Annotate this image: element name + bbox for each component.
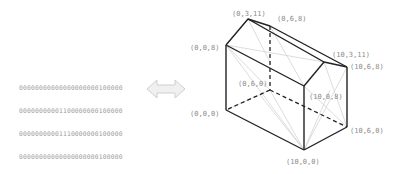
vertex-label: (0,6,0) — [238, 80, 268, 88]
vertex-label: (0,0,8) — [190, 44, 220, 52]
vertex-label: (0,0,0) — [190, 110, 220, 118]
vertex-label: (10,0,8) — [309, 93, 343, 101]
vertex-label: (10,0,0) — [286, 158, 320, 166]
vertex-label: (10,6,8) — [350, 63, 384, 71]
house-wireframe: (0,3,11) (0,6,8) (0,0,8) (0,6,0) (0,0,0)… — [0, 0, 405, 174]
vertex-label: (0,3,11) — [232, 10, 266, 18]
vertex-label: (10,3,11) — [332, 51, 370, 59]
vertex-label: (10,6,0) — [350, 127, 384, 135]
vertex-label: (0,6,8) — [277, 15, 307, 23]
